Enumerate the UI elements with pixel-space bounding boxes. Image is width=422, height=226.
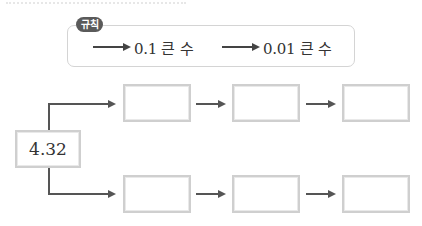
right-arrow-icon xyxy=(196,103,224,105)
right-arrow-icon xyxy=(222,46,258,48)
right-arrow-icon xyxy=(306,103,334,105)
rule-item-0.01: 0.01 큰 수 xyxy=(222,38,332,56)
rule-label: 0.01 큰 수 xyxy=(263,37,332,58)
connector-down xyxy=(48,167,50,195)
right-arrow-icon xyxy=(196,193,224,195)
top-answer-box-3[interactable] xyxy=(342,84,410,122)
bottom-answer-box-2[interactable] xyxy=(232,175,300,213)
rule-item-0.1: 0.1 큰 수 xyxy=(93,38,193,56)
bottom-branch-arrow xyxy=(48,193,114,195)
rule-badge: 규칙 xyxy=(76,17,103,32)
bottom-answer-box-3[interactable] xyxy=(342,175,410,213)
connector-up xyxy=(48,103,50,131)
bottom-answer-box-1[interactable] xyxy=(123,175,191,213)
clipped-heading-fragment xyxy=(6,0,186,4)
rule-label: 0.1 큰 수 xyxy=(134,37,193,58)
top-answer-box-1[interactable] xyxy=(123,84,191,122)
start-value-box: 4.32 xyxy=(15,130,81,168)
top-branch-arrow xyxy=(48,103,114,105)
right-arrow-icon xyxy=(93,46,129,48)
right-arrow-icon xyxy=(306,193,334,195)
top-answer-box-2[interactable] xyxy=(232,84,300,122)
